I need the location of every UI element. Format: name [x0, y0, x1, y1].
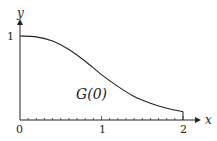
x-axis-label: x [205, 113, 212, 127]
curve-label: G(0) [76, 86, 107, 102]
x-tick-1: 1 [99, 123, 106, 136]
x-tick-0: 0 [16, 123, 23, 136]
chart: 1 0 1 2 y x G(0) [0, 0, 217, 141]
x-axis-ticks [28, 116, 183, 120]
y-axis-label: y [16, 6, 24, 20]
x-axis-arrow-icon [195, 117, 201, 123]
y-tick-1: 1 [7, 30, 14, 43]
x-tick-2: 2 [180, 123, 187, 136]
